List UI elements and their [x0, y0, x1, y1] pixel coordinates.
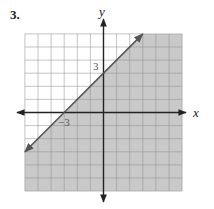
x-intercept-label: −3	[58, 116, 70, 128]
y-axis-label: y	[97, 4, 105, 19]
x-axis-label: x	[192, 105, 199, 120]
y-intercept-label: 3	[93, 60, 99, 72]
inequality-graph: x y 3 −3	[0, 0, 214, 209]
